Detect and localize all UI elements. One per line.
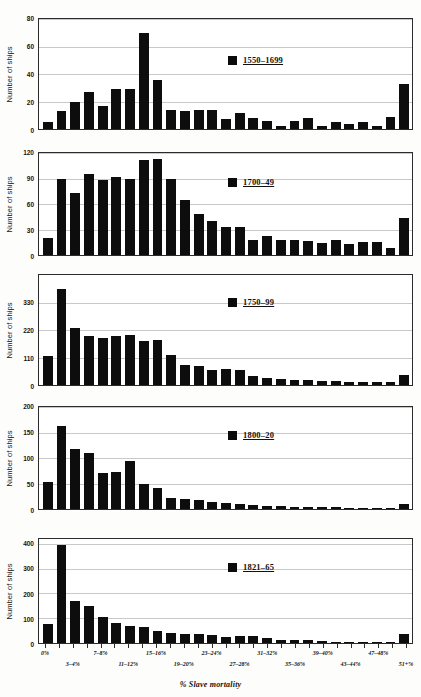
bar	[153, 159, 163, 255]
bar-slot	[315, 19, 329, 129]
bar	[317, 641, 327, 643]
bar-slot	[123, 153, 137, 255]
bar	[125, 179, 135, 256]
bar	[372, 642, 382, 643]
bar	[386, 508, 396, 509]
x-axis-tick-label: 27–28%	[229, 661, 249, 667]
bar	[221, 227, 231, 255]
bar	[43, 356, 53, 386]
bar	[344, 382, 354, 385]
chart-panel-4: Number of ships050100150200	[0, 406, 421, 510]
bar	[111, 623, 121, 643]
bar-slot	[384, 539, 398, 643]
bar	[290, 240, 300, 255]
bar	[166, 633, 176, 643]
bar-slot	[288, 539, 302, 643]
bar	[344, 642, 354, 643]
bar-slot	[55, 539, 69, 643]
bar-series	[39, 153, 412, 255]
bar-slot	[384, 153, 398, 255]
bar	[290, 121, 300, 129]
x-axis-tick	[170, 644, 171, 648]
bar	[139, 160, 149, 255]
bar	[180, 365, 190, 386]
bar	[180, 634, 190, 643]
bar-slot	[192, 153, 206, 255]
bar-slot	[219, 19, 233, 129]
x-axis-tick	[45, 644, 46, 648]
bar	[317, 243, 327, 255]
bar	[358, 508, 368, 509]
bar-slot	[370, 19, 384, 129]
bar-slot	[96, 153, 110, 255]
bar	[207, 370, 217, 386]
bar	[57, 179, 67, 256]
bar	[194, 634, 204, 643]
bar-slot	[233, 153, 247, 255]
x-axis-tick-label: 7–8%	[94, 650, 108, 656]
bar-slot	[233, 539, 247, 643]
bar	[262, 378, 272, 386]
bar	[70, 601, 80, 643]
bar	[386, 642, 396, 643]
bar-slot	[137, 539, 151, 643]
bar-slot	[233, 275, 247, 385]
bar	[372, 382, 382, 385]
bar-slot	[301, 19, 315, 129]
bar-slot	[233, 19, 247, 129]
bar-slot	[274, 275, 288, 385]
bar-slot	[178, 275, 192, 385]
bar-slot	[356, 539, 370, 643]
bar	[372, 242, 382, 255]
x-axis-tick-labels: 0%3–4%7–8%11–12%15–16%19–20%23–24%27–28%…	[38, 648, 413, 678]
y-axis-title-text: Number of ships	[5, 302, 14, 358]
bar	[235, 113, 245, 130]
bar-slot	[205, 539, 219, 643]
bar-slot	[356, 275, 370, 385]
bar	[235, 227, 245, 255]
bar	[98, 106, 108, 129]
bar-slot	[96, 275, 110, 385]
bar-slot	[110, 19, 124, 129]
x-axis-tick	[351, 644, 352, 648]
bar-slot	[301, 407, 315, 509]
bar-slot	[151, 19, 165, 129]
x-axis-tick-label: 47–48%	[368, 650, 388, 656]
bar-slot	[96, 539, 110, 643]
chart-panel-3: Number of ships0110220330	[0, 274, 421, 386]
bar-slot	[164, 539, 178, 643]
x-axis-tick	[378, 644, 379, 648]
bar-slot	[192, 539, 206, 643]
legend-label: 1800–20	[243, 430, 274, 440]
bar-slot	[68, 407, 82, 509]
bar-slot	[151, 153, 165, 255]
bar	[262, 638, 272, 643]
bar-slot	[260, 275, 274, 385]
bar-slot	[178, 539, 192, 643]
y-axis-tick-label: 150	[23, 429, 34, 436]
x-axis-tick	[184, 644, 185, 648]
plot-area	[38, 18, 413, 130]
bar-slot	[342, 407, 356, 509]
bar-slot	[315, 153, 329, 255]
legend-3: 1750–99	[228, 297, 274, 307]
bar	[331, 240, 341, 255]
y-axis-tick-label: 90	[27, 175, 34, 182]
x-axis-tick	[406, 644, 407, 648]
bar	[317, 126, 327, 129]
x-axis-tick	[59, 644, 60, 648]
bar	[303, 241, 313, 255]
bar-slot	[205, 19, 219, 129]
bar-slot	[68, 19, 82, 129]
x-axis-tick	[309, 644, 310, 648]
y-axis-tick-labels: 0306090120	[14, 152, 36, 256]
bar-slot	[260, 19, 274, 129]
bar-slot	[247, 539, 261, 643]
y-axis-tick-label: 100	[23, 615, 34, 622]
bar-slot	[219, 539, 233, 643]
bar-slot	[55, 153, 69, 255]
y-axis-tick-label: 0	[30, 383, 34, 390]
y-axis-tick-label: 80	[27, 15, 34, 22]
x-axis-tick-label: 0%	[41, 650, 49, 656]
bar-slot	[384, 275, 398, 385]
